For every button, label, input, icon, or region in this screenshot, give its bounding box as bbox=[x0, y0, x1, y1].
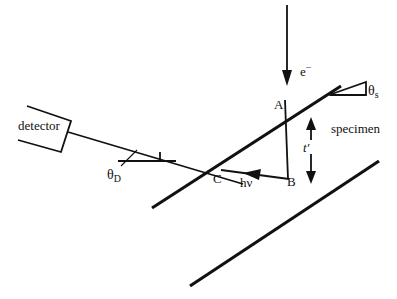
thickness-arrow-up-head bbox=[306, 117, 316, 130]
theta-s-label: θs bbox=[368, 84, 379, 98]
diagram-canvas bbox=[0, 0, 397, 299]
theta-s-subscript: s bbox=[375, 89, 379, 100]
point-b-label: B bbox=[287, 175, 296, 188]
theta-d-symbol: θ bbox=[107, 167, 114, 182]
electron-beam-charge-sign: − bbox=[306, 62, 312, 73]
segment-a-to-b-line bbox=[285, 100, 288, 179]
theta-d-subscript: D bbox=[114, 173, 121, 184]
photon-label: hν bbox=[240, 176, 252, 189]
electron-beam-label: e− bbox=[300, 65, 311, 78]
diagram-figure: detector specimen e− θs θD A B C hν t′ bbox=[0, 0, 397, 299]
electron-beam-arrowhead bbox=[282, 70, 292, 86]
specimen-label: specimen bbox=[331, 122, 380, 135]
point-a-label: A bbox=[274, 98, 283, 111]
theta-d-label: θD bbox=[107, 168, 121, 182]
thickness-arrow-down-head bbox=[306, 171, 316, 184]
thickness-label: t′ bbox=[303, 141, 309, 154]
detector-label: detector bbox=[18, 119, 60, 132]
point-c-label: C bbox=[213, 172, 222, 185]
theta-s-symbol: θ bbox=[368, 83, 375, 98]
theta-d-leader-line bbox=[121, 150, 137, 166]
